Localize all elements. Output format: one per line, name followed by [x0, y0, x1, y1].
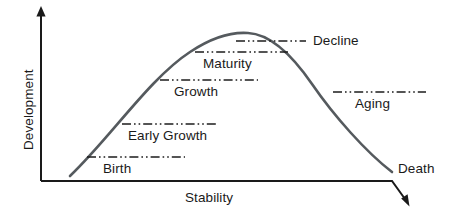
y-axis-title: Development — [22, 69, 36, 150]
x-axis-title: Stability — [185, 191, 233, 205]
stage-label-aging: Aging — [355, 97, 390, 111]
lifecycle-curve — [70, 33, 392, 176]
stage-label-early-growth: Early Growth — [128, 129, 207, 143]
stage-label-decline: Decline — [313, 34, 359, 48]
y-axis-arrowhead-icon — [36, 6, 45, 17]
lifecycle-diagram: Development Stability Birth Early Growth… — [0, 0, 453, 220]
stage-label-maturity: Maturity — [203, 57, 252, 71]
stage-label-death: Death — [398, 162, 435, 176]
stage-label-birth: Birth — [103, 162, 131, 176]
stage-label-growth: Growth — [174, 85, 218, 99]
